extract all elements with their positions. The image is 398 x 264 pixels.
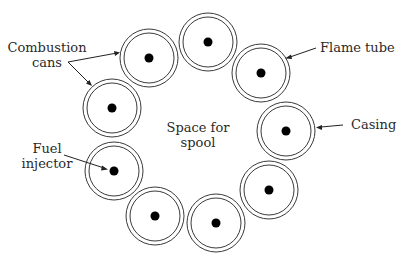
label-combustion-cans-line2: cans	[32, 55, 62, 70]
fuel-injector-icon	[265, 186, 274, 195]
combustion-cans-arrows	[68, 51, 120, 86]
fuel-injector-icon	[204, 38, 213, 47]
fuel-injector-icon	[151, 212, 160, 221]
arrow-head-icon	[285, 55, 292, 60]
combustion-can	[179, 13, 237, 71]
combustion-can	[232, 44, 290, 102]
arrow-to-can-9	[68, 62, 89, 83]
combustion-can	[240, 161, 298, 219]
fuel-injector-icon	[257, 69, 266, 78]
fuel-injector-icon	[282, 127, 291, 136]
arrow-head-icon	[114, 51, 120, 56]
arrow-head-icon	[101, 166, 108, 171]
fuel-injector-icon	[108, 104, 117, 113]
combustion-can	[120, 29, 178, 87]
combustion-can	[257, 102, 315, 160]
combustion-can	[83, 79, 141, 137]
arrow-head-icon	[316, 125, 322, 130]
fuel-injector-icon	[110, 167, 119, 176]
combustion-can	[187, 194, 245, 252]
flame-tube-arrow	[285, 48, 316, 59]
combustion-chamber-diagram: Combustion cans Flame tube Casing Fuel i…	[0, 0, 398, 264]
label-casing: Casing	[351, 117, 396, 132]
label-flame-tube: Flame tube	[320, 40, 395, 55]
label-fuel-injector-line1: Fuel	[32, 141, 61, 156]
combustion-can	[126, 187, 184, 245]
label-fuel-injector-line2: injector	[22, 156, 74, 171]
label-center-line2: spool	[181, 135, 216, 150]
label-combustion-cans-line1: Combustion	[7, 40, 87, 55]
casing-arrow	[316, 125, 343, 130]
arrow-to-casing	[321, 125, 343, 127]
label-center-line1: Space for	[167, 120, 231, 135]
combustion-can	[85, 142, 143, 200]
arrow-to-flame-tube	[290, 48, 316, 57]
fuel-injector-icon	[212, 219, 221, 228]
fuel-injector-icon	[145, 54, 154, 63]
